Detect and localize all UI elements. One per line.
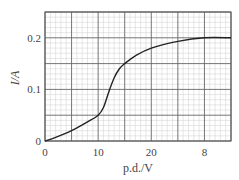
x-tick-label: 20 xyxy=(146,146,158,158)
x-tick-label: 0 xyxy=(42,146,48,158)
plot-frame xyxy=(45,12,231,141)
y-tick-label: 0 xyxy=(36,135,42,147)
y-tick-labels: 00.10.2 xyxy=(27,32,41,147)
y-tick-label: 0.1 xyxy=(27,83,41,95)
x-tick-label: 10 xyxy=(93,146,105,158)
x-tick-labels: 010208 xyxy=(42,146,207,158)
major-grid xyxy=(45,12,231,141)
x-tick-label: 8 xyxy=(202,146,208,158)
x-axis-label: p.d./V xyxy=(123,161,153,175)
y-tick-label: 0.2 xyxy=(27,32,41,44)
chart: 010208 00.10.2 p.d./V I/A xyxy=(0,0,239,180)
minor-grid xyxy=(45,12,231,141)
y-axis-label: I/A xyxy=(8,70,22,86)
